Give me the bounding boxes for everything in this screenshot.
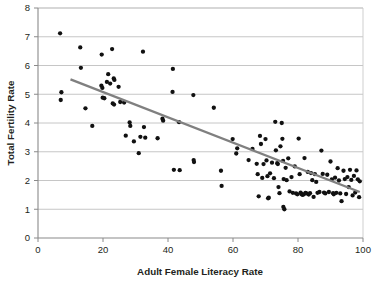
data-point	[161, 119, 165, 123]
data-point	[273, 120, 277, 124]
data-point	[256, 172, 260, 176]
data-point	[108, 81, 112, 85]
data-point	[284, 178, 288, 182]
data-point	[100, 86, 104, 90]
data-point	[339, 199, 343, 203]
data-point	[277, 191, 281, 195]
y-tick-label: 2	[25, 175, 30, 186]
y-tick-label: 4	[25, 117, 30, 128]
data-point	[59, 90, 63, 94]
data-point	[328, 159, 332, 163]
data-point	[354, 168, 358, 172]
data-point	[59, 98, 63, 102]
data-point	[297, 136, 301, 140]
data-point	[280, 137, 284, 141]
data-point	[235, 146, 239, 150]
data-point	[267, 196, 271, 200]
data-point	[83, 106, 87, 110]
data-point	[358, 179, 362, 183]
data-point	[311, 195, 315, 199]
data-point	[284, 166, 288, 170]
data-point	[178, 168, 182, 172]
data-point	[192, 160, 196, 164]
x-axis-ticks: 020406080100	[35, 238, 371, 255]
x-tick-label: 0	[35, 244, 40, 255]
data-point	[341, 169, 345, 173]
data-point	[268, 171, 272, 175]
data-point	[171, 67, 175, 71]
data-point	[272, 176, 276, 180]
data-point	[246, 158, 250, 162]
data-point	[317, 190, 321, 194]
data-point	[234, 151, 238, 155]
data-point	[170, 90, 174, 94]
y-tick-label: 7	[25, 31, 30, 42]
data-point	[286, 156, 290, 160]
data-point	[259, 142, 263, 146]
data-point	[58, 31, 62, 35]
data-point	[333, 175, 337, 179]
data-point	[357, 195, 361, 199]
data-point	[79, 66, 83, 70]
data-point	[231, 137, 235, 141]
data-point	[212, 106, 216, 110]
data-point	[106, 72, 110, 76]
data-point	[344, 192, 348, 196]
y-tick-label: 0	[25, 232, 30, 243]
y-tick-label: 1	[25, 204, 30, 215]
y-axis-ticks: 012345678	[25, 2, 38, 243]
data-point	[352, 174, 356, 178]
data-point	[302, 156, 306, 160]
data-point	[110, 47, 114, 51]
data-point	[278, 144, 282, 148]
data-point	[155, 136, 159, 140]
data-point	[124, 134, 128, 138]
y-tick-label: 6	[25, 60, 30, 71]
data-point	[338, 191, 342, 195]
data-point	[128, 124, 132, 128]
x-tick-label: 80	[293, 244, 304, 255]
data-point	[219, 169, 223, 173]
data-point	[334, 191, 338, 195]
x-tick-label: 40	[163, 244, 174, 255]
data-point	[274, 148, 278, 152]
data-point	[260, 176, 264, 180]
y-tick-label: 5	[25, 89, 30, 100]
y-tick-label: 3	[25, 146, 30, 157]
data-point	[345, 175, 349, 179]
x-tick-label: 60	[228, 244, 239, 255]
data-point	[349, 178, 353, 182]
data-point	[116, 85, 120, 89]
data-point	[261, 162, 265, 166]
data-point	[255, 162, 259, 166]
data-point	[282, 207, 286, 211]
data-point	[308, 191, 312, 195]
data-point	[297, 172, 301, 176]
data-point	[257, 194, 261, 198]
data-point	[314, 180, 318, 184]
data-point	[78, 45, 82, 49]
data-point	[258, 134, 262, 138]
data-point	[90, 124, 94, 128]
data-point	[348, 168, 352, 172]
data-point	[137, 151, 141, 155]
data-point	[172, 168, 176, 172]
data-point	[191, 93, 195, 97]
data-point	[321, 172, 325, 176]
scatter-chart: 020406080100 012345678 Adult Female Lite…	[0, 0, 382, 286]
data-point	[143, 136, 147, 140]
data-point	[264, 158, 268, 162]
data-point	[327, 190, 331, 194]
data-point	[112, 78, 116, 82]
data-point	[219, 184, 223, 188]
chart-canvas: 020406080100 012345678 Adult Female Lite…	[0, 0, 382, 286]
data-point	[138, 135, 142, 139]
data-point	[142, 125, 146, 129]
data-point	[280, 121, 284, 125]
data-point	[132, 139, 136, 143]
x-tick-label: 20	[98, 244, 109, 255]
data-point	[112, 102, 116, 106]
data-point	[263, 137, 267, 141]
data-point	[276, 185, 280, 189]
data-point	[289, 175, 293, 179]
